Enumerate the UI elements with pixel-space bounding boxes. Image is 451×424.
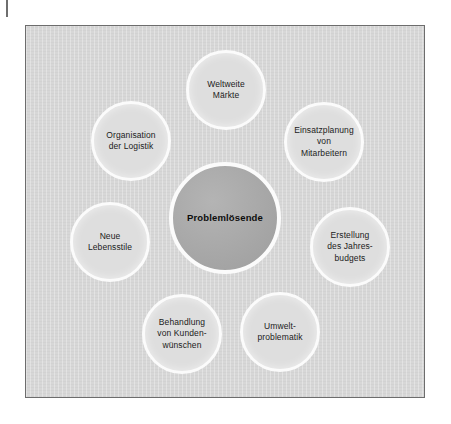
node-behandlung-von-kundenwuenschen-label: Behandlungvon Kunden-wünschen xyxy=(155,317,208,352)
node-einsatzplanung-von-mitarbeitern[interactable]: EinsatzplanungvonMitarbeitern xyxy=(284,102,364,182)
node-umweltproblematik[interactable]: Umwelt-problematik xyxy=(240,292,320,372)
node-center-problemloesende[interactable]: Problemlösende xyxy=(169,162,281,274)
node-erstellung-des-jahresbudgets-label: Erstellungdes Jahres-budgets xyxy=(325,230,375,265)
node-neue-lebensstile-label: NeueLebensstile xyxy=(86,231,134,254)
node-behandlung-von-kundenwuenschen[interactable]: Behandlungvon Kunden-wünschen xyxy=(142,294,222,374)
node-neue-lebensstile[interactable]: NeueLebensstile xyxy=(70,202,150,282)
node-erstellung-des-jahresbudgets[interactable]: Erstellungdes Jahres-budgets xyxy=(310,207,390,287)
node-weltweite-maerkte-label: WeltweiteMärkte xyxy=(205,79,247,102)
node-umweltproblematik-label: Umwelt-problematik xyxy=(255,321,304,344)
node-einsatzplanung-von-mitarbeitern-label: EinsatzplanungvonMitarbeitern xyxy=(292,125,356,160)
node-organisation-der-logistik[interactable]: Organisationder Logistik xyxy=(91,101,171,181)
diagram-panel: WeltweiteMärkteEinsatzplanungvonMitarbei… xyxy=(25,25,425,398)
node-weltweite-maerkte[interactable]: WeltweiteMärkte xyxy=(186,50,266,130)
radial-cluster-diagram: WeltweiteMärkteEinsatzplanungvonMitarbei… xyxy=(26,26,424,397)
node-center-problemloesende-label: Problemlösende xyxy=(187,212,263,224)
node-organisation-der-logistik-label: Organisationder Logistik xyxy=(104,130,157,153)
crop-tick-mark xyxy=(6,0,8,17)
